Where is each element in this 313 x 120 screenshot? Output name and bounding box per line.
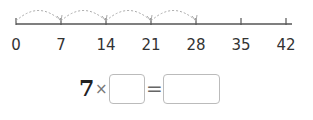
tick-label: 14: [96, 36, 115, 54]
jump-arc: [61, 11, 106, 22]
tick-label: 42: [276, 36, 295, 54]
tick-label: 0: [11, 36, 21, 54]
multiplicand: 7: [79, 73, 94, 103]
jump-arc: [106, 11, 151, 22]
tick-label: 28: [186, 36, 205, 54]
number-line: 071421283542: [0, 0, 313, 60]
jump-arc: [151, 11, 196, 22]
tick-label: 35: [231, 36, 250, 54]
times-sign: ×: [95, 76, 108, 102]
answer-box-product[interactable]: [163, 74, 220, 104]
tick-label: 21: [141, 36, 160, 54]
equals-sign: =: [146, 75, 163, 101]
jump-arc: [16, 11, 61, 22]
tick-label: 7: [56, 36, 66, 54]
answer-box-multiplier[interactable]: [109, 74, 145, 104]
